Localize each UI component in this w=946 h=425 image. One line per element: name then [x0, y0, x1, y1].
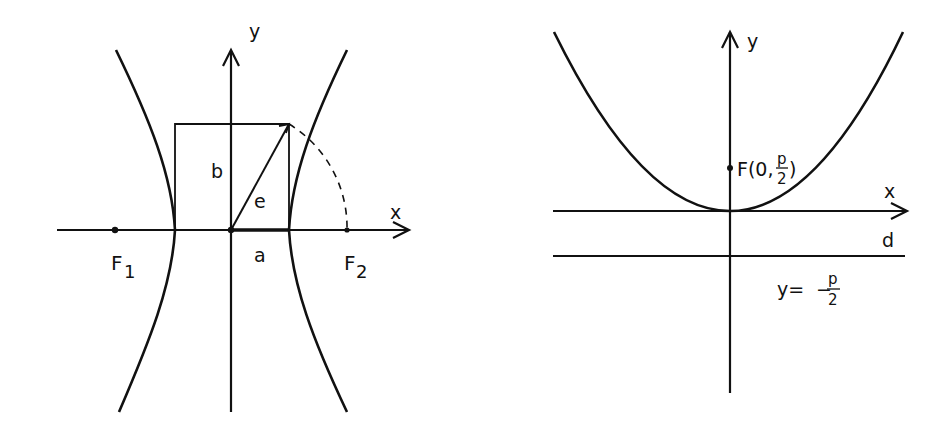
b-label: b: [211, 160, 223, 182]
parabola-figure: y x F(0, p 2 ) d y= − p 2: [553, 30, 907, 393]
hyperbola-figure: y x b e a F 1 F 2: [57, 20, 409, 412]
focus-label-suffix: ): [789, 158, 796, 180]
directrix-eq-numerator: p: [828, 270, 838, 288]
directrix-eq-denominator: 2: [828, 291, 838, 309]
directrix-eq-prefix: y=: [777, 278, 804, 300]
focus-f1-point: [112, 227, 118, 233]
origin-point: [228, 227, 234, 233]
diagram-canvas: y x b e a F 1 F 2 y x F(0, p 2 ) d y= − …: [0, 0, 946, 425]
f2-subscript: 2: [356, 261, 367, 282]
x-axis-label: x: [390, 201, 401, 223]
focus-label-denominator: 2: [777, 170, 787, 188]
focus-point: [727, 165, 733, 171]
focus-label-prefix: F(0,: [737, 158, 773, 180]
y-axis-label: y: [747, 30, 758, 52]
f2-label: F: [344, 251, 356, 275]
f1-subscript: 1: [124, 261, 135, 282]
f1-label: F: [111, 251, 123, 275]
diagonal-e: [231, 124, 289, 230]
directrix-label: d: [882, 229, 894, 251]
focus-f2-point: [344, 227, 349, 232]
e-label: e: [254, 190, 266, 212]
x-axis-label: x: [884, 180, 895, 202]
a-label: a: [254, 244, 266, 266]
y-axis-label: y: [249, 20, 260, 42]
parabola-curve: [554, 32, 903, 211]
focus-label-numerator: p: [777, 150, 787, 168]
